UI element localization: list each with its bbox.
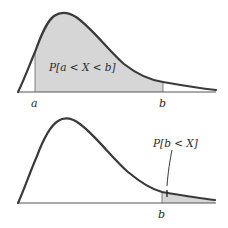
tick-label-b-bottom: b	[158, 208, 165, 221]
tick-label-a: a	[31, 97, 38, 110]
density-curve-bottom	[18, 119, 215, 203]
label-pointer-line	[167, 150, 172, 186]
tick-label-b-top: b	[159, 97, 166, 110]
region-label-tail: P[b < X]	[152, 137, 199, 149]
top-panel: P[a < X < b] a b	[18, 13, 216, 110]
region-label-a-to-b: P[a < X < b]	[48, 61, 117, 73]
shaded-region-a-to-b	[35, 13, 163, 92]
bottom-panel: P[b < X] b	[18, 119, 216, 221]
probability-density-diagram: P[a < X < b] a b P[b < X] b	[0, 0, 228, 228]
